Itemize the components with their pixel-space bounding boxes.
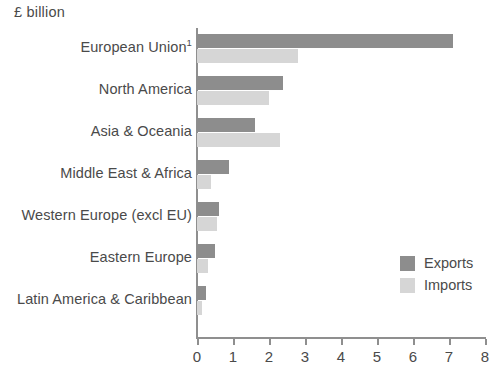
legend-label-imports: Imports xyxy=(424,277,472,293)
x-axis-tick-mark xyxy=(485,339,487,345)
x-axis-tick-mark xyxy=(413,339,415,345)
x-axis-tick-mark xyxy=(341,339,343,345)
x-axis-tick-label: 8 xyxy=(481,348,489,365)
legend-swatch-imports xyxy=(400,278,415,293)
bar-exports xyxy=(197,286,206,300)
bar-imports xyxy=(197,259,208,273)
category-label: Middle East & Africa xyxy=(0,165,192,181)
chart-title: £ billion xyxy=(14,4,65,20)
x-axis-tick-mark xyxy=(269,339,271,345)
chart-category-row: Asia & Oceania xyxy=(0,114,500,156)
x-axis-tick-mark xyxy=(377,339,379,345)
category-footnote-marker: 1 xyxy=(187,37,192,48)
chart-category-row: Middle East & Africa xyxy=(0,156,500,198)
category-label: Eastern Europe xyxy=(0,249,192,265)
bar-exports xyxy=(197,76,283,90)
category-label: North America xyxy=(0,81,192,97)
bar-imports xyxy=(197,175,211,189)
x-axis-tick-label: 5 xyxy=(373,348,381,365)
x-axis-tick-label: 6 xyxy=(409,348,417,365)
chart-legend: Exports Imports xyxy=(400,252,473,296)
category-label: Asia & Oceania xyxy=(0,123,192,139)
bar-exports xyxy=(197,34,453,48)
chart-category-row: North America xyxy=(0,72,500,114)
x-axis-tick-label: 0 xyxy=(193,348,201,365)
bar-imports xyxy=(197,91,269,105)
category-label: European Union1 xyxy=(0,39,192,55)
legend-item-imports: Imports xyxy=(400,274,473,296)
x-axis-tick-mark xyxy=(233,339,235,345)
x-axis-tick-label: 3 xyxy=(301,348,309,365)
chart-category-row: Western Europe (excl EU) xyxy=(0,198,500,240)
legend-label-exports: Exports xyxy=(424,255,473,271)
bar-imports xyxy=(197,133,280,147)
category-label: Western Europe (excl EU) xyxy=(0,207,192,223)
legend-item-exports: Exports xyxy=(400,252,473,274)
x-axis-tick-mark xyxy=(305,339,307,345)
bar-imports xyxy=(197,49,298,63)
x-axis-tick-mark xyxy=(197,339,199,345)
bar-exports xyxy=(197,244,215,258)
bar-imports xyxy=(197,217,217,231)
category-label: Latin America & Caribbean xyxy=(0,291,192,307)
x-axis-tick-label: 1 xyxy=(229,348,237,365)
x-axis-tick-label: 4 xyxy=(337,348,345,365)
legend-swatch-exports xyxy=(400,256,415,271)
bar-exports xyxy=(197,118,255,132)
bar-chart: £ billion 012345678 European Union1North… xyxy=(0,0,500,374)
bar-exports xyxy=(197,160,229,174)
x-axis-tick-mark xyxy=(449,339,451,345)
chart-category-row: European Union1 xyxy=(0,30,500,72)
x-axis-tick-label: 2 xyxy=(265,348,273,365)
bar-imports xyxy=(197,301,202,315)
bar-exports xyxy=(197,202,219,216)
x-axis-tick-label: 7 xyxy=(445,348,453,365)
